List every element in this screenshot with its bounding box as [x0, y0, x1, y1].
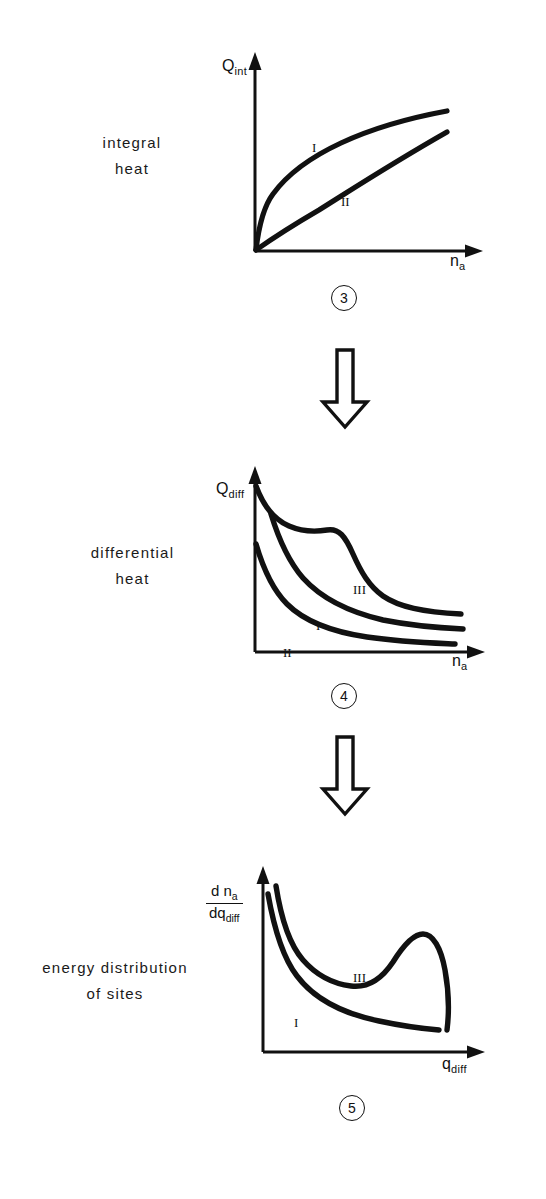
block-arrow-down-icon	[316, 735, 374, 817]
curve-label-II: II	[283, 645, 292, 661]
figure-number-5: 5	[339, 1095, 365, 1121]
caption-line: integral	[62, 130, 202, 156]
curve-label-I: I	[294, 1015, 298, 1031]
curve-III	[276, 886, 448, 1030]
panel-integral-heat: integral heat Qint na I II 3	[0, 0, 546, 340]
chart-energy-distribution	[241, 862, 501, 1067]
chart-differential-heat	[233, 462, 498, 667]
caption-energy-distribution: energy distribution of sites	[10, 955, 220, 1008]
arrow-3-to-4	[316, 348, 374, 434]
figure-number-3: 3	[331, 285, 357, 311]
curve-label-III: III	[353, 582, 366, 598]
chart-integral-heat-svg	[233, 48, 493, 268]
panel-differential-heat: differential heat Qdiff na III I II 4	[0, 440, 546, 740]
caption-differential-heat: differential heat	[50, 540, 215, 593]
chart-integral-heat	[233, 48, 493, 268]
x-axis-label-integral: na	[450, 252, 465, 272]
chart-differential-heat-svg	[233, 462, 498, 667]
y-axis-label-integral: Qint	[222, 57, 247, 77]
block-arrow-down-icon	[316, 348, 374, 430]
caption-line: differential	[50, 540, 215, 566]
fraction-denominator: dqdiff	[206, 904, 243, 924]
x-axis-label-differential: na	[452, 652, 467, 672]
curve-label-I: I	[316, 618, 320, 634]
fraction-numerator: d na	[206, 883, 243, 904]
curve-I	[268, 894, 439, 1030]
chart-energy-distribution-svg	[241, 862, 501, 1067]
caption-integral-heat: integral heat	[62, 130, 202, 183]
caption-line: heat	[62, 156, 202, 182]
caption-line: heat	[50, 566, 215, 592]
curve-label-III: III	[353, 970, 366, 986]
x-axis-label-energy-distribution: qdiff	[442, 1055, 467, 1075]
figure-number-4: 4	[331, 683, 357, 709]
y-axis-label-differential: Qdiff	[216, 480, 245, 500]
panel-energy-distribution: energy distribution of sites d na dqdiff	[0, 840, 546, 1140]
curve-label-I: I	[312, 140, 316, 156]
curve-label-II: II	[341, 194, 350, 210]
caption-line: energy distribution	[10, 955, 220, 981]
y-axis-label-energy-distribution: d na dqdiff	[206, 883, 243, 925]
caption-line: of sites	[10, 981, 220, 1007]
curve-II	[256, 132, 447, 250]
arrow-4-to-5	[316, 735, 374, 821]
x-axis	[255, 245, 483, 258]
